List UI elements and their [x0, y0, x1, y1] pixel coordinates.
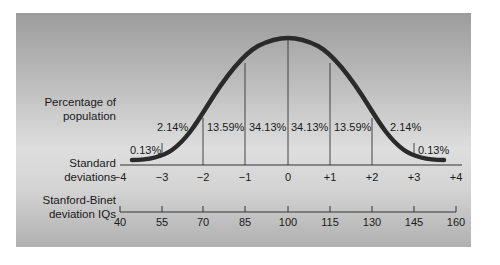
iq-tick: 145 [405, 216, 423, 228]
sd-tick: −4 [114, 171, 127, 183]
sd-tick: +1 [324, 171, 337, 183]
sd-tick: 0 [285, 171, 291, 183]
sd-tick: +2 [366, 171, 379, 183]
sd-tick: −1 [239, 171, 252, 183]
pct-label: 34.13% [249, 121, 287, 133]
sd-tick: +4 [450, 171, 463, 183]
pct-label: 2.14% [390, 121, 421, 133]
iq-ticks [120, 206, 456, 212]
iq-tick: 130 [363, 216, 381, 228]
pct-label: 13.59% [334, 121, 372, 133]
iq-tick: 100 [279, 216, 297, 228]
iq-tick: 70 [197, 216, 209, 228]
iq-tick: 85 [239, 216, 251, 228]
sd-tick: −2 [197, 171, 210, 183]
segment-dividers [162, 40, 414, 165]
sd-tick: −3 [156, 171, 169, 183]
iq-tick: 115 [321, 216, 339, 228]
pct-label: 0.13% [418, 144, 449, 156]
normal-curve-chart: 0.13% 2.14% 13.59% 34.13% 34.13% 13.59% … [0, 0, 500, 265]
pct-label: 34.13% [291, 121, 329, 133]
sd-tick-labels: −4 −3 −2 −1 0 +1 +2 +3 +4 [114, 171, 463, 183]
iq-tick: 40 [114, 216, 126, 228]
iq-tick: 160 [447, 216, 465, 228]
pct-label: 13.59% [207, 121, 245, 133]
pct-label: 2.14% [157, 121, 188, 133]
pct-label: 0.13% [130, 144, 161, 156]
iq-tick: 55 [156, 216, 168, 228]
iq-tick-labels: 40 55 70 85 100 115 130 145 160 [114, 216, 465, 228]
sd-tick: +3 [408, 171, 421, 183]
